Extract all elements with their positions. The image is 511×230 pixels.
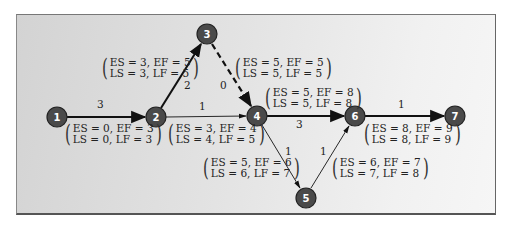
weight-4-6: 3 (296, 118, 303, 130)
label-activity-4-6: (ES = 5, EF = 8LS = 5, LF = 8) (263, 87, 363, 109)
label-activity-6-7: (ES = 8, EF = 9LS = 8, LF = 9) (362, 123, 462, 145)
label-activity-3-4: (ES = 5, EF = 5LS = 5, LF = 5) (233, 57, 333, 79)
node-5: 5 (296, 188, 316, 208)
weight-2-4: 1 (199, 100, 206, 112)
weight-1-2: 3 (97, 98, 104, 110)
label-activity-4-5: (ES = 5, EF = 6LS = 6, LF = 7) (201, 157, 301, 179)
svg-text:1: 1 (54, 112, 61, 123)
label-activity-1-2: (ES = 0, EF = 3LS = 0, LF = 3) (63, 123, 163, 145)
label-activity-2-3: (ES = 3, EF = 5LS = 3, LF = 5) (100, 57, 200, 79)
svg-text:6: 6 (352, 111, 359, 122)
weight-3-4: 0 (220, 79, 227, 91)
label-activity-2-4: (ES = 3, EF = 4LS = 4, LF = 5) (166, 123, 266, 145)
weight-5-6: 1 (320, 145, 327, 157)
node-3: 3 (197, 24, 217, 44)
svg-text:3: 3 (204, 29, 211, 40)
weight-2-3: 2 (184, 79, 191, 91)
label-activity-5-6: (ES = 6, EF = 7LS = 7, LF = 8) (330, 157, 430, 179)
edge-2-4 (166, 116, 246, 117)
network-diagram: 1 2 3 4 5 6 7 (0, 0, 511, 230)
svg-text:5: 5 (303, 193, 310, 204)
weight-6-7: 1 (398, 98, 405, 110)
